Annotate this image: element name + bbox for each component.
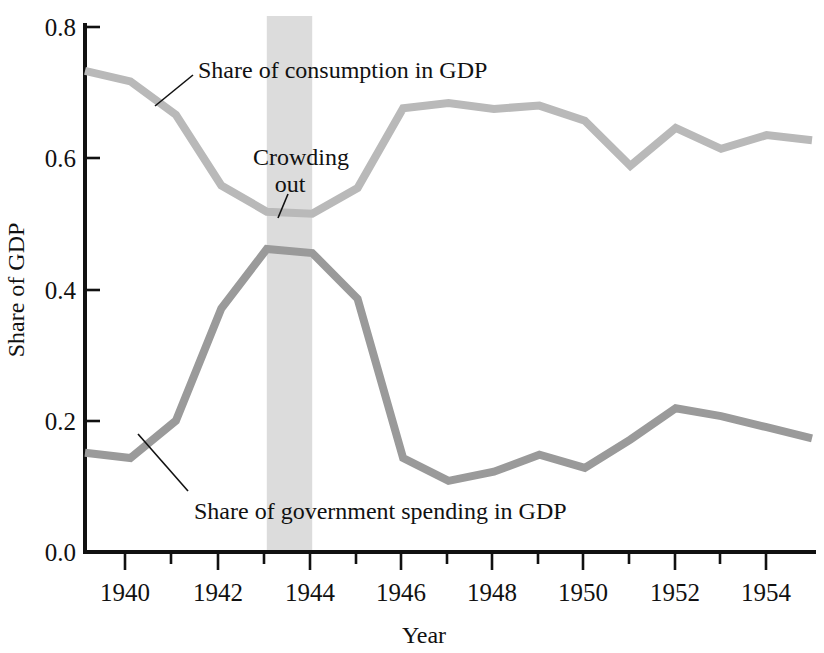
x-tick-label-1944: 1944 bbox=[285, 579, 336, 606]
x-tick-label-1954: 1954 bbox=[741, 579, 792, 606]
crowding-out-label-line2: out bbox=[275, 171, 306, 197]
y-tick-label-0.6: 0.6 bbox=[45, 145, 76, 172]
x-tick-marks bbox=[125, 552, 766, 570]
y-tick-label-0.4: 0.4 bbox=[45, 277, 77, 304]
chart-container: 0.8 0.6 0.4 0.2 0.0 1940 1942 1944 1946 bbox=[0, 0, 824, 653]
crowding-out-band bbox=[267, 16, 312, 552]
x-axis-title: Year bbox=[402, 622, 446, 648]
y-tick-label-0.0: 0.0 bbox=[45, 539, 76, 566]
crowding-out-label-line1: Crowding bbox=[253, 144, 349, 170]
x-tick-label-1948: 1948 bbox=[467, 579, 517, 606]
x-tick-label-1942: 1942 bbox=[193, 579, 243, 606]
line-chart: 0.8 0.6 0.4 0.2 0.0 1940 1942 1944 1946 bbox=[0, 0, 824, 653]
consumption-series-label: Share of consumption in GDP bbox=[198, 57, 487, 83]
series-line-consumption bbox=[85, 71, 812, 214]
x-tick-label-1950: 1950 bbox=[558, 579, 608, 606]
x-tick-label-1940: 1940 bbox=[100, 579, 150, 606]
y-tick-label-0.8: 0.8 bbox=[45, 14, 76, 41]
y-axis-title: Share of GDP bbox=[3, 223, 29, 358]
x-tick-label-1952: 1952 bbox=[650, 579, 700, 606]
series-line-government bbox=[85, 249, 812, 481]
government-series-label: Share of government spending in GDP bbox=[194, 498, 567, 524]
x-tick-label-1946: 1946 bbox=[376, 579, 426, 606]
y-tick-label-0.2: 0.2 bbox=[45, 408, 76, 435]
government-leader-line bbox=[138, 434, 188, 491]
consumption-leader-line bbox=[155, 75, 193, 106]
